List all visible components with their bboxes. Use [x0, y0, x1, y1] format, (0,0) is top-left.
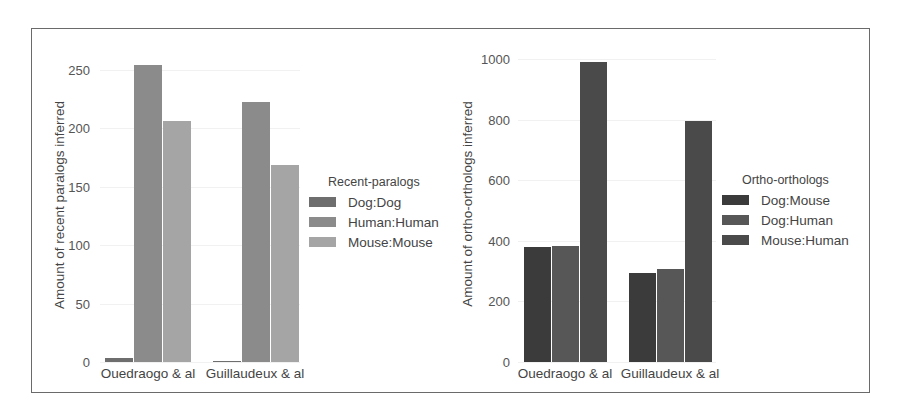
- y-tick-label: 400: [470, 233, 510, 248]
- y-tick-label: 0: [470, 355, 510, 370]
- bar-dog-mouse-ouedraogo: [524, 247, 551, 362]
- legend-label: Dog:Human: [761, 213, 833, 228]
- legend-title: Ortho-orthologs: [722, 173, 849, 187]
- legend-swatch: [722, 195, 749, 205]
- gridline: [518, 362, 716, 363]
- y-tick-label: 1000: [470, 52, 510, 67]
- bar-dog-human-ouedraogo: [552, 246, 579, 362]
- bar-dog-mouse-guillaudeux: [629, 273, 656, 362]
- legend-swatch: [722, 215, 749, 225]
- legend-label: Dog:Mouse: [761, 193, 830, 208]
- legend-swatch: [722, 235, 749, 245]
- right-x-tick-ouedraogo: Ouedraogo & al: [518, 366, 613, 381]
- bar-dog-human-guillaudeux: [657, 269, 684, 362]
- legend-label: Mouse:Human: [761, 233, 849, 248]
- y-tick-label: 200: [470, 294, 510, 309]
- bar-mouse-human-guillaudeux: [685, 121, 712, 362]
- ortho-orthologs-legend: Ortho-orthologs Dog:Mouse Dog:Human Mous…: [722, 173, 849, 250]
- legend-item-dog-mouse: Dog:Mouse: [722, 190, 849, 210]
- right-y-axis-label: Amount of ortho-orthologs inferred: [460, 101, 475, 307]
- ortho-orthologs-chart: Amount of ortho-orthologs inferred 02004…: [0, 0, 900, 415]
- right-x-tick-guillaudeux: Guillaudeux & al: [621, 366, 719, 381]
- y-tick-label: 800: [470, 112, 510, 127]
- y-tick-label: 600: [470, 173, 510, 188]
- bar-mouse-human-ouedraogo: [580, 62, 607, 362]
- gridline: [518, 59, 716, 60]
- legend-item-mouse-human: Mouse:Human: [722, 230, 849, 250]
- legend-item-dog-human: Dog:Human: [722, 210, 849, 230]
